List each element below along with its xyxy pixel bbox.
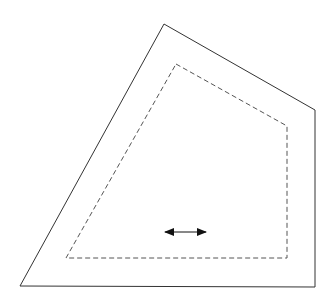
inner-dashed-polygon <box>66 64 287 258</box>
polygon-offset-diagram <box>0 0 330 308</box>
outer-solid-polygon <box>20 24 315 287</box>
diagram-canvas <box>0 0 330 308</box>
